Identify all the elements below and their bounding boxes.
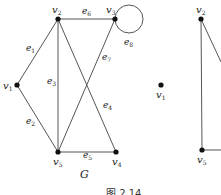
edge-e8-loop xyxy=(115,5,143,33)
graph-label-g: G xyxy=(80,168,89,181)
label-e4: e4 xyxy=(103,100,112,111)
vertex-v1 xyxy=(14,82,19,87)
label-e1: e1 xyxy=(26,43,35,54)
vertex-v2-right xyxy=(198,16,203,21)
vertex-v2 xyxy=(55,16,60,21)
label-e8: e8 xyxy=(124,37,133,48)
partial-graph-edges xyxy=(201,19,221,150)
label-e3: e3 xyxy=(47,76,56,87)
label-v2: v2 xyxy=(52,4,62,16)
vertex-v4 xyxy=(113,149,118,154)
partial-graph-vertices xyxy=(158,16,204,152)
vertex-v5 xyxy=(55,149,60,154)
edge-e2 xyxy=(17,85,58,152)
figure-caption: 图 2.14 xyxy=(106,188,141,195)
vertex-v1-isolated xyxy=(158,82,163,87)
edge-v2-offscreen xyxy=(201,19,221,62)
graph-g-edges xyxy=(17,5,143,152)
label-v1: v1 xyxy=(3,80,12,92)
vertex-v5-right xyxy=(199,147,204,152)
graph-g-edge-labels: e1 e2 e3 e4 e5 e6 e7 e8 xyxy=(26,6,133,161)
label-v2-right: v2 xyxy=(196,4,206,16)
label-e2: e2 xyxy=(26,116,35,127)
label-v5-right: v5 xyxy=(197,154,207,166)
graph-g-vertices xyxy=(14,16,118,154)
vertex-v3 xyxy=(112,16,117,21)
figure-canvas: v1 v2 v3 v4 v5 e1 e2 e3 e4 e5 e6 e7 e8 G… xyxy=(0,0,221,195)
edge-v2-v5 xyxy=(201,19,202,150)
label-v4: v4 xyxy=(112,156,122,168)
label-v1-isolated: v1 xyxy=(156,89,165,101)
label-e6: e6 xyxy=(82,6,91,17)
label-v3: v3 xyxy=(106,4,116,16)
label-e7: e7 xyxy=(102,52,111,63)
label-v5: v5 xyxy=(53,156,63,168)
